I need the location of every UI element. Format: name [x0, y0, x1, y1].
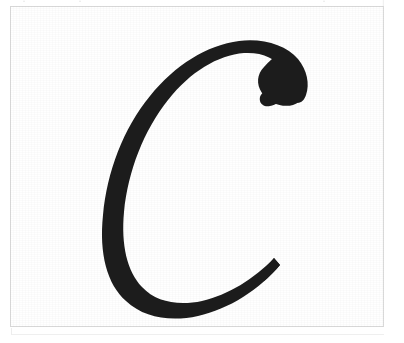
specimen-frame [10, 6, 384, 327]
letter-c-glyph [11, 7, 385, 328]
glyph-stage [11, 7, 385, 328]
scan-tick-artifact [11, 328, 12, 335]
ghost-mark: | [382, 0, 384, 5]
scan-edge-artifact [12, 334, 384, 335]
letter-c-ink [102, 40, 308, 318]
scanned-page: · · · | [0, 0, 404, 343]
